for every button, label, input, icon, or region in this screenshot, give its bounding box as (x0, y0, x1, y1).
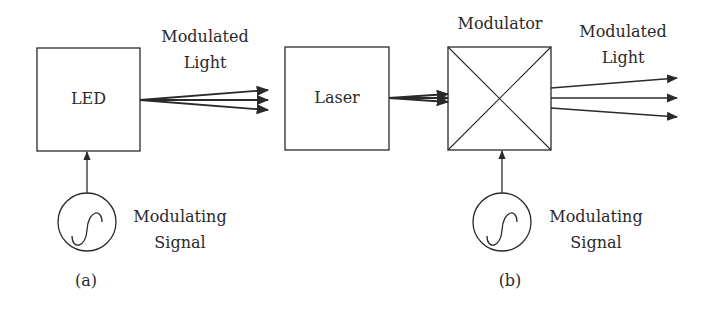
modulator-label: Modulator (445, 11, 555, 37)
modulated-light-label-a: Modulated Light (150, 24, 260, 76)
modulation-diagram: LED Modulated Light Modulating Signal (a… (0, 0, 710, 310)
modulated-light-line1: Modulated (150, 24, 260, 50)
modulator-box (448, 47, 551, 150)
sine-wave-source-icon (58, 193, 116, 251)
modulating-signal-line2: Signal (540, 230, 652, 256)
modulating-signal-label-a: Modulating Signal (124, 204, 236, 256)
modulating-signal-line1: Modulating (124, 204, 236, 230)
modulated-light-label-b: Modulated Light (568, 19, 678, 71)
modulated-light-line2: Light (150, 50, 260, 76)
modulator-output-arrows (551, 78, 677, 117)
laser-output-arrows (389, 94, 448, 102)
laser-label: Laser (285, 85, 389, 111)
sine-wave-source-icon (473, 193, 531, 251)
panel-b-caption: (b) (490, 268, 530, 294)
modulated-light-line2: Light (568, 45, 678, 71)
modulating-signal-label-b: Modulating Signal (540, 204, 652, 256)
modulating-signal-line2: Signal (124, 230, 236, 256)
modulated-light-line1: Modulated (568, 19, 678, 45)
modulating-signal-line1: Modulating (540, 204, 652, 230)
panel-a-caption: (a) (66, 268, 106, 294)
led-label: LED (37, 86, 140, 112)
led-output-arrows (140, 90, 268, 110)
